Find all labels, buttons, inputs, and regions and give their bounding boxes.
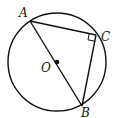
center-point-o — [55, 60, 60, 65]
geometry-diagram: A C O B — [0, 0, 117, 118]
label-c: C — [101, 30, 110, 44]
label-a: A — [18, 6, 28, 20]
segment-cb — [82, 35, 96, 106]
label-o: O — [41, 61, 51, 75]
label-b: B — [80, 106, 90, 118]
